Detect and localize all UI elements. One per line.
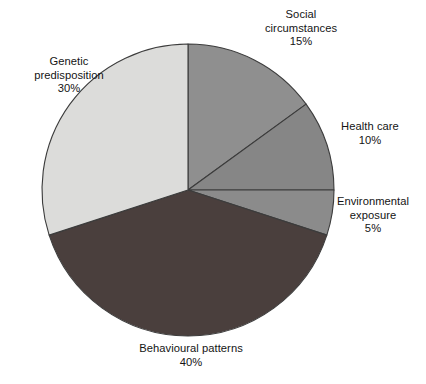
slice-value-social-circumstances: 15% (245, 35, 357, 49)
slice-value-genetic-predisposition: 30% (8, 82, 130, 96)
slice-label-environmental-exposure-line1: Environmental (322, 195, 424, 209)
slice-label-behavioural-patterns: Behavioural patterns 40% (108, 342, 274, 369)
slice-label-genetic-predisposition-line1: Genetic (8, 55, 130, 69)
slice-label-genetic-predisposition: Genetic predisposition 30% (8, 55, 130, 96)
slice-label-behavioural-patterns-line1: Behavioural patterns (108, 342, 274, 356)
slice-label-health-care-line1: Health care (318, 120, 422, 134)
slice-label-environmental-exposure: Environmental exposure 5% (322, 195, 424, 236)
slice-value-health-care: 10% (318, 134, 422, 148)
slice-label-social-circumstances: Social circumstances 15% (245, 8, 357, 49)
pie-chart-figure: Social circumstances 15% Health care 10%… (0, 0, 426, 384)
slice-label-social-circumstances-line1: Social (245, 8, 357, 22)
slice-label-health-care: Health care 10% (318, 120, 422, 147)
slice-value-behavioural-patterns: 40% (108, 356, 274, 370)
slice-value-environmental-exposure: 5% (322, 222, 424, 236)
slice-label-social-circumstances-line2: circumstances (245, 22, 357, 36)
slice-label-environmental-exposure-line2: exposure (322, 209, 424, 223)
slice-label-genetic-predisposition-line2: predisposition (8, 69, 130, 83)
